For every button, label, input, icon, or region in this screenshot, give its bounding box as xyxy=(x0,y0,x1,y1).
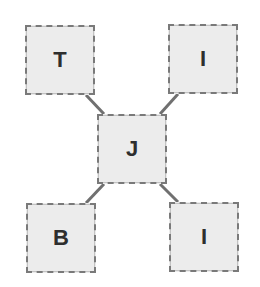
diagram-canvas: T I J B I xyxy=(0,0,260,287)
node-label: I xyxy=(201,226,207,248)
node-label: T xyxy=(53,49,66,71)
node-label: J xyxy=(126,138,138,160)
edge-center-bottom-right xyxy=(160,184,178,202)
edge-center-top-right xyxy=(160,94,178,114)
edge-center-bottom-left xyxy=(86,184,104,203)
node-label: B xyxy=(53,227,69,249)
node-bottom-right: I xyxy=(169,202,239,272)
node-bottom-left: B xyxy=(26,203,96,273)
node-top-left: T xyxy=(25,25,95,95)
node-center: J xyxy=(97,114,167,184)
node-label: I xyxy=(200,48,206,70)
edge-center-top-left xyxy=(86,95,104,114)
node-top-right: I xyxy=(168,24,238,94)
